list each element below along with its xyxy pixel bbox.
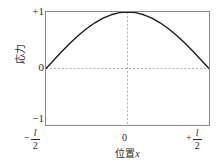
- x-axis-title-variable: x: [135, 148, 139, 159]
- x-axis-title-text: 位置: [115, 148, 135, 159]
- y-tick-label-zero: 0: [39, 62, 45, 73]
- x-tick-mid-value: 0: [122, 128, 127, 143]
- x-tick-label-zero: 0: [122, 128, 127, 143]
- x-tick-label-minus-half-l: − l 2: [24, 128, 40, 151]
- y-tick-label-minus-one: −1: [32, 113, 44, 124]
- x-tick-left-sign: −: [24, 128, 30, 143]
- x-tick-left-numerator: l: [32, 128, 39, 138]
- x-tick-right-sign: +: [186, 128, 192, 143]
- plot-svg: [46, 12, 209, 125]
- x-tick-left-fraction: l 2: [31, 128, 40, 151]
- y-axis-title: 応力: [15, 33, 27, 75]
- x-axis-title: 位置x: [45, 148, 210, 160]
- x-tick-left-denominator: 2: [31, 141, 40, 151]
- y-tick-label-plus-one: +1: [32, 6, 44, 17]
- stress-distribution-chart: +1 0 −1 応力 − l 2 0 + l 2: [0, 0, 223, 165]
- plot-area: [45, 11, 210, 126]
- x-tick-right-numerator: l: [194, 128, 201, 138]
